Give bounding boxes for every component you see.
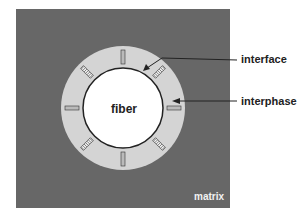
matrix-label: matrix (194, 191, 224, 202)
fiber-matrix-diagram (0, 0, 299, 219)
chain-segment-icon (121, 50, 125, 64)
diagram-canvas: fiber interface interphase matrix (0, 0, 299, 219)
chain-segment-icon (65, 106, 79, 110)
interphase-label: interphase (241, 95, 297, 107)
chain-segment-icon (167, 106, 181, 110)
chain-segment-icon (121, 152, 125, 166)
fiber-label: fiber (111, 102, 137, 116)
interface-label: interface (241, 53, 287, 65)
